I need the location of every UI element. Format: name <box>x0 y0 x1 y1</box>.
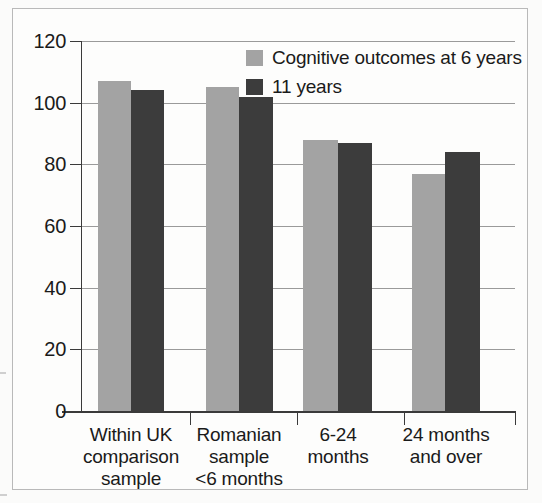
y-tick-label-20: 20 <box>44 339 66 359</box>
bar-series2-group4 <box>445 152 480 411</box>
x-axis-line <box>62 411 516 413</box>
category-separator-4 <box>515 411 516 425</box>
bar-series1-group3 <box>303 140 338 411</box>
category-label-4: 24 monthsand over <box>371 424 521 468</box>
category-label-line: <6 months <box>164 468 314 490</box>
legend-label-series-1: Cognitive outcomes at 6 years <box>272 47 522 69</box>
y-tick-label-120: 120 <box>34 31 66 51</box>
y-tick-mark-40 <box>70 288 82 289</box>
bar-series2-group2 <box>239 97 273 412</box>
y-tick-mark-80 <box>70 164 82 165</box>
y-tick-mark-20 <box>70 349 82 350</box>
y-tick-mark-0 <box>70 411 82 412</box>
legend-item-cognitive-outcomes-6-years: Cognitive outcomes at 6 years <box>246 47 522 69</box>
y-tick-label-60: 60 <box>44 216 66 236</box>
chart-legend: Cognitive outcomes at 6 years 11 years <box>246 47 522 105</box>
y-tick-label-80: 80 <box>44 154 66 174</box>
legend-swatch-icon-dark <box>246 79 263 95</box>
bar-series1-group4 <box>412 174 445 411</box>
scan-edge-mark-left-top <box>0 372 6 374</box>
legend-item-11-years: 11 years <box>246 76 522 98</box>
category-separator-3 <box>404 411 405 425</box>
category-label-line: and over <box>371 446 521 468</box>
y-tick-mark-100 <box>70 103 82 104</box>
legend-label-series-2: 11 years <box>272 76 342 98</box>
y-tick-label-0: 0 <box>55 401 66 421</box>
scan-edge-mark-left-bottom <box>0 494 7 496</box>
bar-series1-group1 <box>98 81 131 411</box>
bar-series2-group3 <box>338 143 372 411</box>
bar-series1-group2 <box>206 87 239 411</box>
category-separator-2 <box>297 411 298 425</box>
y-tick-label-40: 40 <box>44 278 66 298</box>
category-label-line: 24 months <box>371 424 521 446</box>
legend-swatch-icon-light <box>246 50 263 66</box>
y-tick-mark-60 <box>70 226 82 227</box>
category-separator-1 <box>190 411 191 425</box>
y-tick-label-100: 100 <box>34 93 66 113</box>
bar-series2-group1 <box>131 90 164 411</box>
y-tick-mark-120 <box>70 41 82 42</box>
